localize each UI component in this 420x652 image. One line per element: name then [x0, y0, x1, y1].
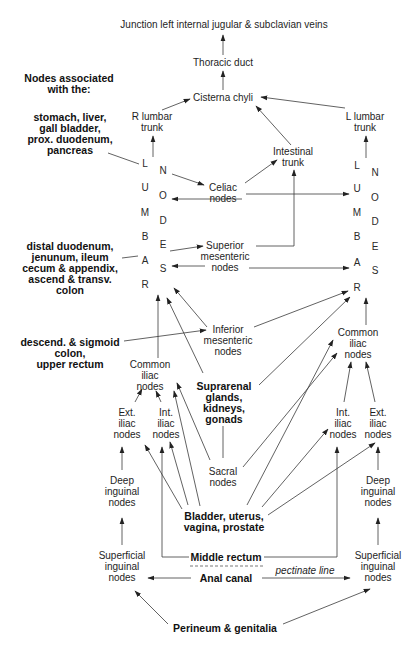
- nodes-letter: O: [159, 190, 167, 201]
- lumbar-letter: B: [354, 231, 361, 242]
- organ-line: gonads: [205, 413, 242, 425]
- pectinate-line-label: pectinate line: [275, 565, 335, 576]
- right-common-iliac-nodes: Common iliac nodes: [338, 327, 379, 360]
- right-ext-iliac-line: Ext.: [369, 407, 386, 418]
- right-superficial-inguinal-line: inguinal: [361, 561, 395, 572]
- header-line: with the:: [46, 83, 90, 95]
- lumbar-letter: U: [141, 182, 148, 193]
- right-common-iliac-line: Common: [338, 327, 379, 338]
- left-common-iliac-nodes: Common iliac nodes: [130, 359, 171, 392]
- r-lumbar-trunk: R lumbar trunk: [132, 111, 173, 133]
- nodes-letter: E: [160, 239, 167, 250]
- left-deep-inguinal-line: Deep: [110, 475, 134, 486]
- anal-canal-label: Anal canal: [200, 572, 253, 584]
- lumbar-letter: M: [141, 207, 149, 218]
- intestinal-trunk-line: Intestinal: [273, 146, 313, 157]
- right-lumbar-nodes: L U M B A R N O D E S: [353, 160, 379, 293]
- upper-gi-organs-label: stomach, liver, gall bladder, prox. duod…: [27, 111, 112, 156]
- lumbar-letter: R: [353, 282, 360, 293]
- nodes-letter: S: [160, 263, 167, 274]
- r-lumbar-trunk-line: R lumbar: [132, 111, 173, 122]
- right-superficial-inguinal-line: Superficial: [355, 550, 402, 561]
- nodes-letter: O: [371, 192, 379, 203]
- right-ext-iliac-nodes: Ext. iliac nodes: [364, 407, 391, 440]
- junction-label: Junction left internal jugular & subclav…: [120, 19, 327, 30]
- lumbar-letter: L: [354, 160, 360, 171]
- right-common-iliac-line: nodes: [344, 349, 371, 360]
- celiac-nodes-line: Celiac: [209, 182, 237, 193]
- right-common-iliac-line: iliac: [349, 338, 366, 349]
- right-deep-inguinal-line: Deep: [366, 475, 390, 486]
- l-lumbar-trunk: L lumbar trunk: [346, 111, 385, 133]
- left-common-iliac-line: Common: [130, 359, 171, 370]
- inferior-mesenteric-line: mesenteric: [204, 335, 253, 346]
- celiac-nodes: Celiac nodes: [209, 182, 237, 204]
- nodes-letter: N: [371, 167, 378, 178]
- lymphatic-drainage-diagram: Nodes associated with the: Junction left…: [0, 0, 420, 652]
- nodes-letter: D: [159, 215, 166, 226]
- left-deep-inguinal-nodes: Deep inguinal nodes: [105, 475, 139, 508]
- lumbar-letter: B: [142, 231, 149, 242]
- superior-mesenteric-nodes: Superior mesenteric nodes: [201, 240, 250, 273]
- left-ext-iliac-line: nodes: [113, 429, 140, 440]
- r-lumbar-trunk-line: trunk: [141, 122, 164, 133]
- left-common-iliac-line: nodes: [136, 381, 163, 392]
- right-deep-inguinal-nodes: Deep inguinal nodes: [361, 475, 395, 508]
- lumbar-letter: R: [141, 279, 148, 290]
- superior-mesenteric-line: mesenteric: [201, 251, 250, 262]
- right-deep-inguinal-line: inguinal: [361, 486, 395, 497]
- left-superficial-inguinal-line: Superficial: [99, 550, 146, 561]
- lumbar-letter: A: [142, 255, 149, 266]
- thoracic-duct-label: Thoracic duct: [193, 57, 253, 68]
- l-lumbar-trunk-line: L lumbar: [346, 111, 385, 122]
- right-int-iliac-line: nodes: [329, 429, 356, 440]
- organ-line: upper rectum: [36, 358, 103, 370]
- organ-line: pancreas: [47, 144, 93, 156]
- celiac-nodes-line: nodes: [209, 193, 236, 204]
- right-int-iliac-nodes: Int. iliac nodes: [329, 407, 356, 440]
- inferior-mesenteric-nodes: Inferior mesenteric nodes: [204, 324, 253, 357]
- organ-line: colon: [56, 284, 84, 296]
- hindgut-organs-label: descend. & sigmoid colon, upper rectum: [20, 336, 119, 370]
- l-lumbar-trunk-line: trunk: [354, 122, 377, 133]
- lumbar-letter: U: [353, 183, 360, 194]
- left-lumbar-nodes: L U M B A R N O D E S: [141, 158, 167, 290]
- left-int-iliac-line: iliac: [157, 418, 174, 429]
- left-deep-inguinal-line: nodes: [108, 497, 135, 508]
- superior-mesenteric-line: Superior: [206, 240, 244, 251]
- left-deep-inguinal-line: inguinal: [105, 486, 139, 497]
- sacral-nodes: Sacral nodes: [209, 466, 237, 488]
- cisterna-chyli-label: Cisterna chyli: [193, 92, 253, 103]
- right-int-iliac-line: Int.: [336, 407, 350, 418]
- intestinal-trunk: Intestinal trunk: [273, 146, 313, 168]
- right-ext-iliac-line: iliac: [369, 418, 386, 429]
- nodes-letter: N: [159, 165, 166, 176]
- suprarenal-organs-label: Suprarenal glands, kidneys, gonads: [197, 380, 252, 425]
- right-superficial-inguinal-line: nodes: [364, 572, 391, 583]
- organ-line: vagina, prostate: [184, 521, 265, 533]
- header-label: Nodes associated with the:: [24, 72, 113, 95]
- nodes-letter: D: [371, 216, 378, 227]
- lumbar-letter: A: [354, 257, 361, 268]
- nodes-letter: S: [372, 265, 379, 276]
- left-ext-iliac-nodes: Ext. iliac nodes: [113, 407, 140, 440]
- right-ext-iliac-line: nodes: [364, 429, 391, 440]
- lumbar-letter: M: [353, 207, 361, 218]
- inferior-mesenteric-line: Inferior: [212, 324, 244, 335]
- left-superficial-inguinal-nodes: Superficial inguinal nodes: [99, 550, 146, 583]
- lumbar-letter: L: [142, 158, 148, 169]
- intestinal-trunk-line: trunk: [282, 157, 305, 168]
- superior-mesenteric-line: nodes: [211, 262, 238, 273]
- sacral-nodes-line: nodes: [209, 477, 236, 488]
- left-ext-iliac-line: Ext.: [118, 407, 135, 418]
- perineum-genitalia-label: Perineum & genitalia: [173, 622, 277, 634]
- right-deep-inguinal-line: nodes: [364, 497, 391, 508]
- left-int-iliac-line: Int.: [159, 407, 173, 418]
- inferior-mesenteric-line: nodes: [214, 346, 241, 357]
- left-superficial-inguinal-line: nodes: [108, 572, 135, 583]
- left-int-iliac-nodes: Int. iliac nodes: [152, 407, 179, 440]
- midgut-organs-label: distal duodenum, jenunum, ileum cecum & …: [22, 240, 118, 296]
- left-superficial-inguinal-line: inguinal: [105, 561, 139, 572]
- left-int-iliac-line: nodes: [152, 429, 179, 440]
- left-common-iliac-line: iliac: [141, 370, 158, 381]
